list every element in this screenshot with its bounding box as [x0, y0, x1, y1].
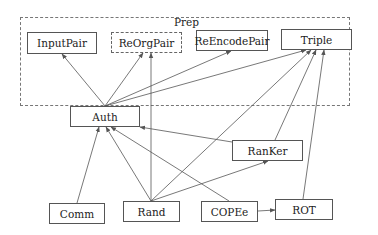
edge-copee-to-rot [258, 210, 275, 211]
node-label: ReEncodePair [195, 35, 270, 47]
node-reencodepair: ReEncodePair [196, 30, 268, 51]
node-triple: Triple [281, 29, 352, 50]
node-label: InputPair [37, 37, 87, 49]
edge-rand-to-triple [151, 50, 311, 201]
edge-auth-to-inputpair [62, 54, 105, 106]
diagram-canvas: Prep InputPairReOrgPairReEncodePairTripl… [0, 0, 378, 235]
node-label: Rand [138, 206, 166, 218]
node-comm: Comm [49, 203, 105, 224]
node-reorgpair: ReOrgPair [111, 32, 182, 53]
node-label: COPEe [211, 206, 249, 218]
node-label: Auth [92, 111, 117, 123]
node-label: Triple [301, 34, 333, 46]
node-ranker: RanKer [232, 140, 303, 161]
node-label: Comm [60, 208, 94, 220]
edge-ranker-to-auth [140, 127, 232, 142]
edge-comm-to-auth [77, 127, 99, 203]
node-inputpair: InputPair [27, 32, 97, 54]
node-auth: Auth [70, 106, 140, 127]
edge-auth-to-triple [105, 50, 306, 106]
node-label: ReOrgPair [119, 37, 175, 49]
edge-auth-to-reencodepair [105, 51, 231, 106]
node-label: ROT [292, 204, 316, 216]
node-rand: Rand [123, 201, 180, 222]
node-copee: COPEe [201, 201, 258, 222]
node-label: RanKer [248, 145, 288, 157]
node-rot: ROT [275, 199, 333, 220]
edge-ranker-to-triple [275, 50, 316, 140]
edge-rand-to-ranker [151, 161, 268, 201]
